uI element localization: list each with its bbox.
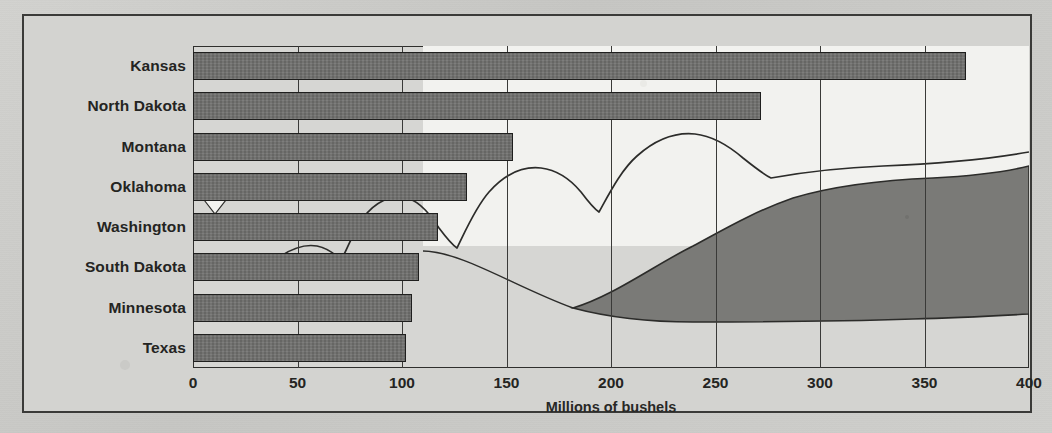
category-axis-labels: KansasNorth DakotaMontanaOklahomaWashing… <box>24 46 186 368</box>
bar-texas <box>193 334 406 362</box>
category-label-texas: Texas <box>26 339 186 357</box>
bar-montana <box>193 133 513 161</box>
tick-label-400: 400 <box>1016 374 1042 392</box>
category-label-washington: Washington <box>26 218 186 236</box>
bar-minnesota <box>193 294 412 322</box>
bar-row <box>193 213 1029 241</box>
bar-row <box>193 92 1029 120</box>
tick-label-100: 100 <box>389 374 415 392</box>
category-label-kansas: Kansas <box>26 57 186 75</box>
tick-label-0: 0 <box>189 374 198 392</box>
bar-north-dakota <box>193 92 761 120</box>
category-label-oklahoma: Oklahoma <box>26 178 186 196</box>
tick-label-50: 50 <box>289 374 306 392</box>
plot-area <box>193 46 1029 368</box>
bar-row <box>193 52 1029 80</box>
category-label-montana: Montana <box>26 138 186 156</box>
category-label-north-dakota: North Dakota <box>26 97 186 115</box>
axis-title: Millions of bushels <box>193 399 1029 415</box>
tick-label-150: 150 <box>494 374 520 392</box>
category-label-minnesota: Minnesota <box>26 299 186 317</box>
bar-south-dakota <box>193 253 419 281</box>
figure-frame: KansasNorth DakotaMontanaOklahomaWashing… <box>22 14 1032 413</box>
bar-row <box>193 133 1029 161</box>
tick-label-200: 200 <box>598 374 624 392</box>
value-axis-tick-labels: 050100150200250300350400 <box>193 374 1029 396</box>
bar-row <box>193 334 1029 362</box>
category-label-south-dakota: South Dakota <box>26 258 186 276</box>
bar-row <box>193 253 1029 281</box>
tick-label-300: 300 <box>807 374 833 392</box>
bar-washington <box>193 213 438 241</box>
bar-row <box>193 294 1029 322</box>
bar-row <box>193 173 1029 201</box>
tick-label-250: 250 <box>703 374 729 392</box>
tick-label-350: 350 <box>912 374 938 392</box>
bar-oklahoma <box>193 173 467 201</box>
bar-series <box>193 46 1029 368</box>
bar-kansas <box>193 52 966 80</box>
